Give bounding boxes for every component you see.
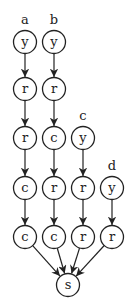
- edge-b5-to-s: [57, 248, 64, 273]
- node-label: y: [78, 130, 87, 145]
- node-label: r: [109, 229, 116, 244]
- node-label: r: [80, 229, 87, 244]
- node-label: r: [22, 130, 29, 145]
- node-label: c: [50, 130, 57, 145]
- column-label-d: d: [108, 158, 116, 173]
- node-b3: c: [43, 127, 66, 150]
- node-a4: c: [14, 177, 37, 200]
- node-label: s: [65, 277, 72, 292]
- node-label: c: [21, 180, 28, 195]
- edge-c3-to-s: [72, 248, 80, 274]
- node-label: c: [50, 229, 57, 244]
- node-label: c: [21, 229, 28, 244]
- node-c1: y: [72, 127, 95, 150]
- node-b2: r: [43, 78, 66, 101]
- node-a3: r: [14, 127, 37, 150]
- edge-a5-to-s: [33, 246, 60, 276]
- column-label-c: c: [79, 108, 86, 123]
- node-a2: r: [14, 78, 37, 101]
- dag-diagram: yrrccyrcrcyrryrs abcd: [0, 0, 134, 308]
- node-label: r: [22, 81, 29, 96]
- column-label-b: b: [50, 12, 58, 27]
- node-a5: c: [14, 226, 37, 249]
- node-label: r: [51, 180, 58, 195]
- node-label: r: [51, 81, 58, 96]
- column-label-a: a: [21, 12, 29, 27]
- node-label: y: [20, 34, 29, 49]
- node-d1: y: [101, 177, 124, 200]
- node-s: s: [57, 274, 80, 297]
- node-label: r: [80, 180, 87, 195]
- node-b1: y: [43, 31, 66, 54]
- node-b5: c: [43, 226, 66, 249]
- node-label: y: [107, 180, 116, 195]
- node-label: y: [49, 34, 58, 49]
- node-a1: y: [14, 31, 37, 54]
- edges: [25, 54, 112, 277]
- node-b4: r: [43, 177, 66, 200]
- node-c3: r: [72, 226, 95, 249]
- node-c2: r: [72, 177, 95, 200]
- edge-d2-to-s: [76, 245, 104, 276]
- node-d2: r: [101, 226, 124, 249]
